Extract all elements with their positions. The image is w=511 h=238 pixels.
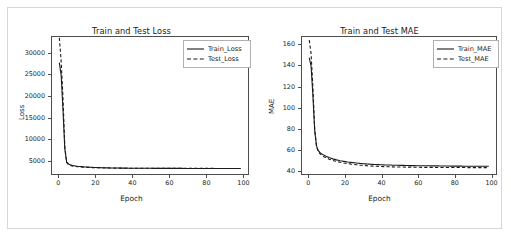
legend-item-test-loss: Test_Loss <box>187 54 246 64</box>
x-tick-mark <box>345 175 346 178</box>
x-tick-label: 40 <box>378 179 386 187</box>
x-axis-label-mae: Epoch <box>256 194 503 203</box>
legend-label-train-mae: Train_MAE <box>458 45 491 53</box>
x-tick-label: 60 <box>165 179 173 187</box>
legend-item-train-mae: Train_MAE <box>437 44 494 54</box>
legend-mae: Train_MAE Test_MAE <box>433 40 499 68</box>
y-tick-mark <box>298 129 301 130</box>
y-tick-mark <box>48 53 51 54</box>
y-tick-mark <box>298 171 301 172</box>
x-tick-label: 80 <box>451 179 459 187</box>
y-tick-label: 5000 <box>8 157 45 165</box>
x-tick-label: 80 <box>202 179 210 187</box>
y-tick-label: 160 <box>256 40 295 48</box>
y-tick-label: 100 <box>256 104 295 112</box>
chart-panel-loss: Train and Test Loss Loss 500010000150002… <box>8 8 255 228</box>
y-tick-label: 120 <box>256 83 295 91</box>
y-tick-label: 30000 <box>8 49 45 57</box>
x-tick-mark <box>418 175 419 178</box>
series-line-train_loss <box>59 63 240 169</box>
y-tick-mark <box>298 44 301 45</box>
series-line-train_mae <box>309 58 488 167</box>
y-tick-mark <box>298 150 301 151</box>
x-tick-label: 0 <box>306 179 310 187</box>
x-tick-mark <box>206 175 207 178</box>
x-tick-mark <box>132 175 133 178</box>
legend-item-test-mae: Test_MAE <box>437 54 494 64</box>
x-tick-label: 20 <box>341 179 349 187</box>
x-tick-label: 60 <box>414 179 422 187</box>
x-tick-mark <box>308 175 309 178</box>
x-axis-label-loss: Epoch <box>8 194 255 203</box>
y-tick-mark <box>298 65 301 66</box>
x-tick-label: 100 <box>485 179 497 187</box>
y-tick-label: 10000 <box>8 135 45 143</box>
y-tick-mark <box>48 74 51 75</box>
y-tick-label: 140 <box>256 61 295 69</box>
y-tick-label: 80 <box>256 125 295 133</box>
y-tick-mark <box>48 96 51 97</box>
y-tick-mark <box>298 108 301 109</box>
chart-panel-mae: Train and Test MAE MAE 40608010012014016… <box>256 8 503 228</box>
legend-swatch-solid <box>437 45 454 53</box>
legend-label-test-mae: Test_MAE <box>458 55 489 63</box>
x-tick-label: 40 <box>128 179 136 187</box>
legend-swatch-solid <box>187 45 204 53</box>
legend-item-train-loss: Train_Loss <box>187 44 246 54</box>
x-tick-mark <box>58 175 59 178</box>
x-tick-mark <box>95 175 96 178</box>
chart-title-loss: Train and Test Loss <box>8 26 255 36</box>
y-tick-mark <box>48 139 51 140</box>
x-tick-mark <box>169 175 170 178</box>
legend-swatch-dashed <box>187 55 204 63</box>
chart-title-mae: Train and Test MAE <box>256 26 503 36</box>
x-tick-label: 100 <box>237 179 249 187</box>
legend-label-test-loss: Test_Loss <box>208 55 239 63</box>
figure-canvas: Train and Test Loss Loss 500010000150002… <box>7 7 502 229</box>
x-tick-mark <box>455 175 456 178</box>
legend-swatch-dashed <box>437 55 454 63</box>
legend-loss: Train_Loss Test_Loss <box>183 40 251 68</box>
y-tick-label: 25000 <box>8 70 45 78</box>
x-tick-label: 20 <box>91 179 99 187</box>
y-tick-mark <box>298 87 301 88</box>
y-tick-mark <box>48 118 51 119</box>
y-tick-label: 60 <box>256 146 295 154</box>
x-tick-mark <box>492 175 493 178</box>
x-tick-mark <box>382 175 383 178</box>
y-tick-label: 40 <box>256 167 295 175</box>
y-tick-mark <box>48 161 51 162</box>
x-tick-label: 0 <box>56 179 60 187</box>
y-tick-label: 20000 <box>8 92 45 100</box>
legend-label-train-loss: Train_Loss <box>208 45 242 53</box>
x-tick-mark <box>243 175 244 178</box>
y-tick-label: 15000 <box>8 114 45 122</box>
